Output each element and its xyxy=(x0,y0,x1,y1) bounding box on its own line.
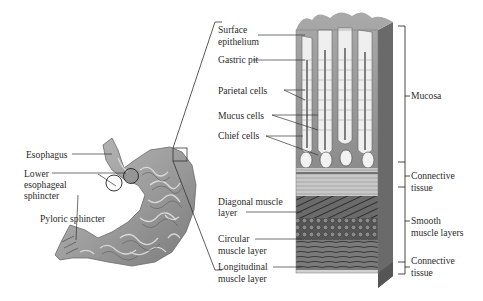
label-longitudinal-muscle-1: Longitudinal xyxy=(218,261,268,272)
label-circular-muscle-2: muscle layer xyxy=(218,245,267,256)
label-chief-cells: Chief cells xyxy=(218,130,259,141)
label-lower-esophageal-sphincter-3: sphincter xyxy=(24,190,59,201)
label-connective-tissue-2b: tissue xyxy=(411,267,433,278)
label-mucosa: Mucosa xyxy=(411,90,441,101)
label-connective-tissue-1b: tissue xyxy=(411,182,433,193)
label-surface-epithelium-1: Surface xyxy=(218,24,247,35)
label-lower-esophageal-sphincter-1: Lower xyxy=(24,168,49,179)
label-pyloric-sphincter: Pyloric sphincter xyxy=(40,213,105,224)
label-mucus-cells: Mucus cells xyxy=(218,110,264,121)
label-esophagus: Esophagus xyxy=(26,149,68,160)
layer-brackets xyxy=(398,26,410,274)
label-parietal-cells: Parietal cells xyxy=(218,85,267,96)
label-lower-esophageal-sphincter-2: esophageal xyxy=(24,179,67,190)
stomach-illustration xyxy=(55,138,196,266)
label-diagonal-muscle-2: layer xyxy=(218,207,237,218)
label-smooth-muscle-1: Smooth xyxy=(411,215,441,226)
label-connective-tissue-2a: Connective xyxy=(411,255,455,266)
label-circular-muscle-1: Circular xyxy=(218,233,249,244)
label-gastric-pit: Gastric pit xyxy=(218,54,258,65)
label-smooth-muscle-2: muscle layers xyxy=(411,227,463,238)
label-connective-tissue-1a: Connective xyxy=(411,170,455,181)
stomach-wall-cross-section xyxy=(296,12,393,288)
label-longitudinal-muscle-2: muscle layer xyxy=(218,273,267,284)
label-diagonal-muscle-1: Diagonal muscle xyxy=(218,196,283,207)
label-surface-epithelium-2: epithelium xyxy=(218,36,259,47)
